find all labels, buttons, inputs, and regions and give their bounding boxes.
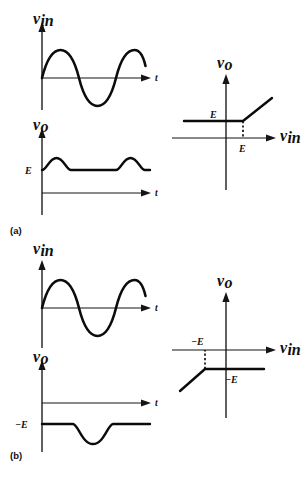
- b-input-y-arrowhead: [38, 260, 45, 270]
- a-input-x-label: t: [155, 73, 158, 83]
- b-output-x-label: t: [155, 398, 158, 408]
- chart-a-transfer: vo vin E E: [172, 54, 301, 190]
- a-output-x-arrowhead: [141, 189, 151, 196]
- panel-a-label: (a): [10, 225, 22, 236]
- a-output-y-label: vo: [33, 116, 48, 135]
- b-transfer-y-arrowhead: [222, 292, 229, 302]
- a-output-x-label: t: [155, 188, 158, 198]
- a-output-clipped-curve: [42, 158, 150, 170]
- b-input-y-label: vin: [33, 240, 54, 259]
- b-transfer-y-label: vo: [217, 272, 232, 291]
- b-output-x-arrowhead: [141, 399, 151, 406]
- b-input-x-arrowhead: [141, 304, 151, 311]
- a-transfer-y-label: vo: [217, 54, 232, 73]
- chart-a-input: vin t: [33, 10, 158, 110]
- b-transfer-vo-level-label: −E: [225, 374, 238, 385]
- a-input-x-arrowhead: [141, 74, 151, 81]
- chart-b-transfer: vo vin −E −E: [172, 272, 301, 418]
- b-input-x-label: t: [155, 303, 158, 313]
- chart-b-output: vo −E t: [15, 348, 158, 452]
- b-output-clipped-curve: [42, 424, 150, 444]
- figure-root: vin t vo E t: [0, 0, 305, 477]
- panel-b-label: (b): [10, 450, 22, 461]
- chart-b-input: vin t: [33, 240, 158, 348]
- a-transfer-x-arrowhead: [266, 134, 276, 141]
- a-transfer-curve: [184, 98, 272, 121]
- b-transfer-curve: [180, 369, 264, 391]
- a-output-level-label: E: [24, 165, 32, 176]
- a-transfer-y-arrowhead: [222, 74, 229, 84]
- b-output-y-label: vo: [33, 348, 48, 367]
- a-transfer-vo-level-label: E: [209, 109, 217, 120]
- a-transfer-vin-level-label: E: [238, 143, 246, 154]
- chart-a-output: vo E t: [24, 116, 158, 215]
- a-input-y-label: vin: [33, 10, 54, 29]
- b-transfer-x-arrowhead: [266, 346, 276, 353]
- b-transfer-x-label: vin: [280, 339, 301, 358]
- b-transfer-vin-level-label: −E: [191, 336, 204, 347]
- b-output-level-label: −E: [15, 419, 28, 430]
- a-transfer-x-label: vin: [280, 127, 301, 146]
- clipper-figure-svg: vin t vo E t: [0, 0, 305, 477]
